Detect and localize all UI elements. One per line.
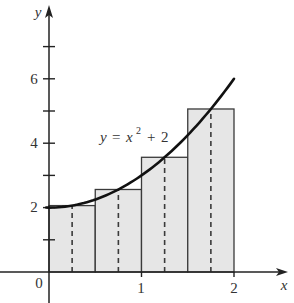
- plot-area: y x 0 2 4 6 1 2 y = x 2 + 2: [0, 0, 294, 303]
- y-tick-label-6: 6: [30, 71, 38, 87]
- x-axis-label: x: [280, 277, 288, 293]
- function-label: y = x 2 + 2: [98, 121, 169, 145]
- function-label-exponent: 2: [136, 125, 141, 136]
- function-label-x: x: [125, 129, 133, 145]
- y-tick-label-2: 2: [30, 199, 38, 215]
- y-tick-label-4: 4: [30, 135, 38, 151]
- function-label-constant: 2: [161, 129, 169, 145]
- x-tick-label-2: 2: [230, 280, 238, 296]
- x-tick-label-1: 1: [137, 280, 145, 296]
- function-label-y: y: [98, 129, 107, 145]
- function-label-equals: =: [112, 129, 120, 145]
- y-axis-label: y: [33, 4, 42, 20]
- riemann-sum-figure: y x 0 2 4 6 1 2 y = x 2 + 2: [0, 0, 294, 303]
- origin-label: 0: [35, 275, 43, 291]
- function-label-plus: +: [147, 129, 155, 145]
